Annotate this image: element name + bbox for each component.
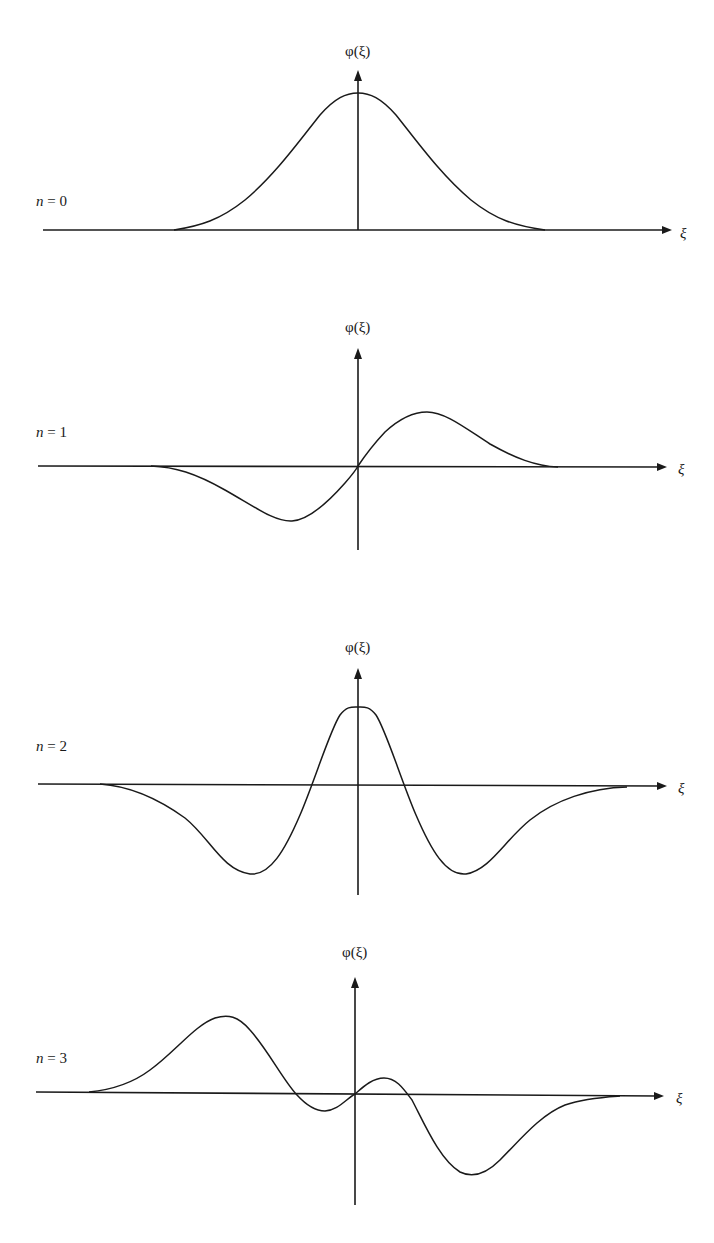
panel-n3: φ(ξ) ξ n = 3 (36, 944, 683, 1205)
x-axis (36, 1092, 657, 1096)
panel-n1: φ(ξ) ξ n = 1 (36, 319, 685, 550)
x-axis-arrow-icon (657, 463, 667, 471)
x-axis (38, 784, 660, 786)
n-label: n = 1 (36, 424, 67, 440)
y-axis-arrow-icon (354, 348, 362, 359)
y-axis-label: φ(ξ) (342, 944, 367, 961)
wavefunction-figure: φ(ξ) ξ n = 0 φ(ξ) ξ n = 1 φ(ξ) ξ n = 2 (0, 0, 714, 1243)
n-label: n = 3 (36, 1050, 67, 1066)
wavefunction-curve (174, 93, 545, 230)
x-axis-label: ξ (676, 1090, 683, 1106)
n-label: n = 0 (36, 193, 67, 209)
panel-n2: φ(ξ) ξ n = 2 (36, 639, 685, 895)
panel-n0: φ(ξ) ξ n = 0 (36, 43, 687, 241)
x-axis-label: ξ (678, 780, 685, 796)
x-axis-arrow-icon (657, 782, 667, 790)
x-axis-label: ξ (680, 225, 687, 241)
x-axis (38, 466, 660, 467)
y-axis-label: φ(ξ) (345, 43, 370, 60)
y-axis-arrow-icon (351, 977, 359, 988)
n-label: n = 2 (36, 738, 67, 754)
y-axis-arrow-icon (354, 668, 362, 679)
x-axis-arrow-icon (654, 1092, 664, 1100)
y-axis-arrow-icon (354, 70, 362, 81)
wavefunction-curve (100, 707, 627, 874)
x-axis-label: ξ (678, 461, 685, 477)
x-axis-arrow-icon (662, 226, 672, 234)
y-axis-label: φ(ξ) (345, 639, 370, 656)
y-axis-label: φ(ξ) (345, 319, 370, 336)
